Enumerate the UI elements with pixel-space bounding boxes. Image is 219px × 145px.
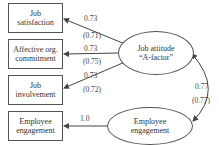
loading-alt-value: (0.71) [83, 32, 101, 40]
factor-job-attitude: Job attitude“A-factor” [118, 31, 194, 75]
loading-value: 0.73 [84, 45, 97, 53]
indicator-label: Job [30, 9, 41, 18]
indicator-label: engagement [16, 126, 55, 135]
indicator-label: commitment [15, 54, 55, 63]
factor-label: Job attitude [137, 44, 174, 53]
factor-label: “A-factor” [139, 53, 173, 62]
factor-employee-engagement: Employeeengagement [107, 107, 193, 145]
factor-label: Employee [134, 117, 166, 126]
indicator-label: Affective org. [13, 45, 58, 54]
loading-value: 0.73 [84, 72, 97, 80]
indicator-label: satisfaction [17, 18, 53, 27]
loading-value: 1.0 [80, 115, 89, 123]
indicator-job-involvement: Jobinvolvement [8, 75, 63, 105]
indicator-label: involvement [16, 90, 56, 99]
indicator-job-satisfaction: Jobsatisfaction [8, 3, 63, 33]
indicator-label: Employee [19, 117, 51, 126]
loading-alt-value: (0.72) [83, 86, 101, 94]
loading-alt-value: (0.75) [83, 58, 101, 66]
indicator-label: Job [30, 81, 41, 90]
correlation-value: 0.77 [195, 83, 208, 91]
indicator-affective-commitment: Affective org.commitment [8, 39, 63, 69]
correlation-alt-value: (0.77) [192, 97, 210, 105]
factor-label: engagement [131, 126, 170, 135]
indicator-employee-engagement: Employeeengagement [8, 111, 63, 141]
loading-value: 0.73 [84, 15, 97, 23]
